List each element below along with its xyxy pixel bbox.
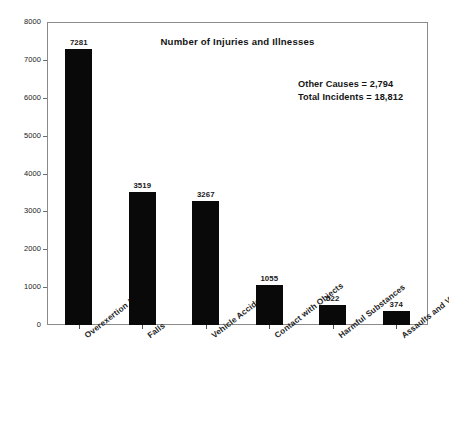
- x-tick-mark: [333, 325, 334, 329]
- bar-value-label: 522: [303, 294, 363, 303]
- x-tick-mark: [79, 325, 80, 329]
- bars-layer: 7281Overexertion / Lifting3519Falls3267V…: [0, 0, 449, 426]
- x-axis-label-text: Contact with Objects: [273, 333, 279, 340]
- x-tick-mark: [206, 325, 207, 329]
- bar: [319, 305, 346, 325]
- x-axis-label-text: Assaults and Violent Acts: [400, 333, 406, 340]
- bar-value-label: 3519: [112, 181, 172, 190]
- annotation-total-incidents: Total Incidents = 18,812: [298, 91, 403, 104]
- chart-title: Number of Injuries and Illnesses: [47, 36, 428, 47]
- bar: [129, 192, 156, 325]
- x-tick-mark: [269, 325, 270, 329]
- x-tick-mark: [396, 325, 397, 329]
- x-axis-label-text: Harmful Substances: [337, 333, 343, 340]
- bar-chart: 010002000300040005000600070008000 7281Ov…: [0, 0, 449, 426]
- bar: [383, 311, 410, 325]
- bar: [192, 201, 219, 325]
- annotation-other-causes: Other Causes = 2,794: [298, 78, 403, 91]
- bar-value-label: 1055: [239, 274, 299, 283]
- x-axis-label-text: Overexertion / Lifting: [83, 333, 89, 340]
- x-tick-mark: [142, 325, 143, 329]
- bar-value-label: 3267: [176, 190, 236, 199]
- x-axis-label-text: Falls: [146, 333, 152, 340]
- bar: [256, 285, 283, 325]
- summary-annotation: Other Causes = 2,794 Total Incidents = 1…: [298, 78, 403, 103]
- x-axis-label-text: Vehicle Accidents: [210, 333, 216, 340]
- bar: [65, 49, 92, 325]
- bar-value-label: 374: [366, 300, 426, 309]
